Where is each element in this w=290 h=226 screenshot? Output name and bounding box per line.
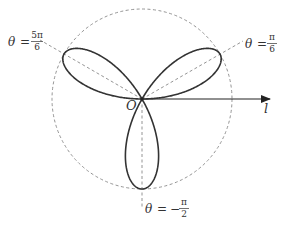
dashed-ray-5pi-6 xyxy=(40,40,142,99)
svg-text:=: = xyxy=(257,37,267,51)
svg-text:=: = xyxy=(20,35,30,49)
svg-text:π: π xyxy=(269,32,275,42)
axis-label: l xyxy=(264,101,268,116)
origin-point xyxy=(140,97,143,100)
svg-text:2: 2 xyxy=(181,209,187,219)
svg-text:6: 6 xyxy=(269,44,275,54)
label-theta-5pi-6: θ = 5π 6 xyxy=(8,30,43,52)
origin-label: O xyxy=(126,98,137,113)
three-leaf-rose-diagram: O l θ = π 6 θ = 5π 6 θ = − π 2 xyxy=(0,0,290,226)
label-theta-pi-6: θ = π 6 xyxy=(245,32,277,54)
svg-text:θ: θ xyxy=(145,202,153,216)
svg-text:−: − xyxy=(170,202,180,216)
dashed-ray-pi-6 xyxy=(142,41,243,99)
svg-text:=: = xyxy=(157,202,167,216)
svg-text:6: 6 xyxy=(34,42,40,52)
label-theta-minus-pi-2: θ = − π 2 xyxy=(145,197,189,219)
svg-text:5π: 5π xyxy=(31,30,43,40)
svg-text:θ: θ xyxy=(8,35,16,49)
svg-text:π: π xyxy=(181,197,187,207)
svg-text:θ: θ xyxy=(245,37,253,51)
